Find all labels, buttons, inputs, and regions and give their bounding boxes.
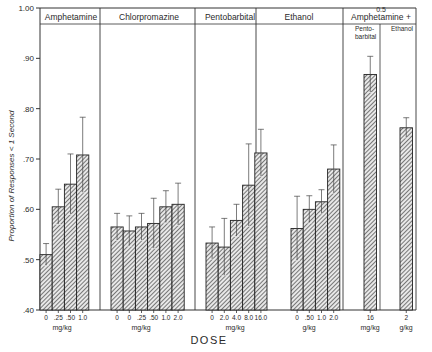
bar	[315, 202, 327, 310]
y-tick-label: .70	[23, 155, 35, 164]
x-tick-labels: 0.25.501.000.25.501.02.002.04.08.016.00.…	[44, 310, 408, 321]
x-axis-label: DOSE	[190, 334, 227, 346]
x-tick-label: .50	[149, 314, 158, 321]
x-tick-label: 1.0	[78, 314, 87, 321]
x-tick-label: 2.0	[329, 314, 338, 321]
x-tick-label: 0	[295, 314, 299, 321]
bar	[400, 128, 413, 310]
y-tick-label: .90	[23, 54, 35, 63]
subheader-ethanol: Ethanol	[391, 25, 414, 32]
y-tick-label: 1.00	[18, 4, 34, 13]
y-tick-label: .60	[23, 205, 35, 214]
header-combo: Amphetamine +	[351, 12, 411, 22]
y-tick-label: .40	[23, 306, 35, 315]
bar	[303, 209, 315, 310]
subheader-pento-1: Pento-	[355, 25, 374, 32]
x-tick-label: 2	[404, 314, 408, 321]
header-chlorpromazine: Chlorpromazine	[119, 12, 179, 22]
subheader-pento-2: barbital	[355, 33, 377, 40]
unit-combo-ethanol: g/kg	[399, 324, 412, 332]
dose-response-chart: .40.50.60.70.80.901.00 0.25.501.000.25.5…	[0, 0, 432, 352]
x-tick-label: 0	[210, 314, 214, 321]
x-tick-label: 1.0	[161, 314, 170, 321]
x-tick-label: .50	[305, 314, 314, 321]
y-tick-label: .80	[23, 105, 35, 114]
x-tick-label: 1.0	[317, 314, 326, 321]
y-axis: .40.50.60.70.80.901.00	[18, 4, 40, 315]
x-tick-label: 8.0	[244, 314, 253, 321]
unit-combo-pento: mg/kg	[360, 324, 379, 332]
y-tick-label: .50	[23, 256, 35, 265]
x-tick-label: 0	[44, 314, 48, 321]
x-tick-label: 16	[367, 314, 375, 321]
unit-amphetamine: mg/kg	[52, 324, 71, 332]
y-axis-label: Proportion of Responses < 1 Second	[7, 110, 16, 242]
x-tick-label: 2.0	[220, 314, 229, 321]
header-ethanol: Ethanol	[285, 12, 314, 22]
bars	[40, 56, 413, 310]
unit-pentobarbital: mg/kg	[225, 324, 244, 332]
x-tick-label: .25	[54, 314, 63, 321]
x-tick-label: 4.0	[232, 314, 241, 321]
x-tick-label: 0	[127, 314, 131, 321]
header-pentobarbital: Pentobarbital	[205, 12, 255, 22]
x-tick-label: 2.0	[174, 314, 183, 321]
unit-chlorpromazine: mg/kg	[131, 324, 150, 332]
x-tick-label: .25	[137, 314, 146, 321]
unit-ethanol: g/kg	[302, 324, 315, 332]
x-tick-label: .50	[66, 314, 75, 321]
header-amphetamine: Amphetamine	[45, 12, 98, 22]
x-tick-label: 16.0	[255, 314, 268, 321]
bar	[364, 74, 377, 310]
x-tick-label: 0	[115, 314, 119, 321]
